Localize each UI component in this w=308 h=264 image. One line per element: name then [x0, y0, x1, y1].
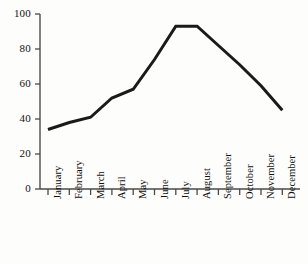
- x-axis-tick-label: November: [265, 154, 276, 199]
- x-axis-tick-label: June: [159, 179, 170, 199]
- x-axis-tick-label: October: [244, 164, 255, 199]
- x-axis-tick-label: January: [52, 166, 63, 199]
- data-series-line: [48, 26, 282, 129]
- x-axis-tick-label: July: [180, 181, 191, 199]
- x-axis-tick-label: March: [95, 171, 106, 199]
- x-axis-tick-label: December: [286, 155, 297, 199]
- y-axis-tick-label: 80: [20, 42, 31, 54]
- y-axis-ticks: [35, 14, 40, 189]
- x-axis-tick-label: February: [73, 160, 84, 199]
- x-axis-tick-label: April: [116, 176, 127, 199]
- x-axis-tick-label: May: [137, 179, 148, 199]
- y-axis-tick-label: 20: [20, 147, 31, 159]
- y-axis-tick-label: 60: [20, 77, 31, 89]
- line-chart: 020406080100 JanuaryFebruaryMarchAprilMa…: [0, 0, 308, 264]
- x-axis-tick-label: September: [222, 153, 233, 199]
- x-axis-tick-label: August: [201, 168, 212, 199]
- y-axis-tick-label: 100: [14, 7, 31, 19]
- y-axis-tick-label: 0: [25, 182, 31, 194]
- y-axis-tick-label: 40: [20, 112, 31, 124]
- chart-plot-area: [0, 0, 308, 264]
